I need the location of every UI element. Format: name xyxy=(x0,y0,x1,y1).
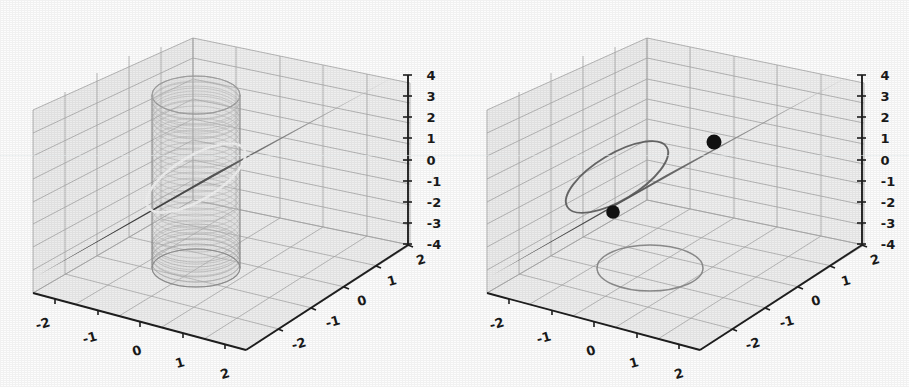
ellipse-min-point[interactable] xyxy=(606,205,620,219)
x-tick-label: -1 xyxy=(535,328,553,346)
x-tick-label: 1 xyxy=(627,354,640,371)
y-tick-label: -1 xyxy=(324,312,342,330)
subplot-ellipse-points[interactable]: -2 -1 0 1 2 -2 -1 0 1 2 xyxy=(454,0,909,387)
ellipse-max-point[interactable] xyxy=(707,135,722,150)
y-tick-label: 0 xyxy=(809,292,822,309)
y-tick-label: -1 xyxy=(778,312,796,330)
subplot-right-svg: -2 -1 0 1 2 -2 -1 0 1 2 xyxy=(454,0,909,387)
y-tick-label: -2 xyxy=(744,334,762,352)
y-tick-label: 2 xyxy=(868,251,881,268)
z-tick-label: 2 xyxy=(880,110,889,125)
x-tick-label: 0 xyxy=(130,342,143,359)
y-tick-label: -2 xyxy=(290,334,308,352)
x-tick-label: 1 xyxy=(173,354,186,371)
y-tick-label: 2 xyxy=(414,251,427,268)
z-tick-label: -3 xyxy=(881,216,895,231)
z-tick-label: 4 xyxy=(880,68,889,83)
z-tick-label: 3 xyxy=(426,89,435,104)
z-tick-label: -2 xyxy=(427,195,441,210)
x-tick-label: -2 xyxy=(34,314,52,332)
z-tick-label: -1 xyxy=(881,174,895,189)
x-tick-label: -1 xyxy=(81,328,99,346)
z-tick-label: 4 xyxy=(426,68,435,83)
z-tick-label: -1 xyxy=(427,174,441,189)
z-tick-label: -2 xyxy=(881,195,895,210)
y-tick-label: 0 xyxy=(355,292,368,309)
z-tick-label: -4 xyxy=(427,237,441,252)
z-tick-label: -3 xyxy=(427,216,441,231)
subplot-left-svg: -2 -1 0 1 2 -2 -1 0 1 2 xyxy=(0,0,455,387)
scan-artifact-line xyxy=(0,155,909,156)
subplot-plane-cylinder[interactable]: -2 -1 0 1 2 -2 -1 0 1 2 xyxy=(0,0,455,387)
figure-canvas: -2 -1 0 1 2 -2 -1 0 1 2 xyxy=(0,0,909,387)
x-tick-label: 2 xyxy=(218,365,231,382)
z-tick-label: 2 xyxy=(426,110,435,125)
z-tick-label: 1 xyxy=(880,131,889,146)
x-tick-label: -2 xyxy=(488,314,506,332)
x-tick-label: 2 xyxy=(672,365,685,382)
z-tick-label: -4 xyxy=(881,237,895,252)
z-tick-label: 1 xyxy=(426,131,435,146)
x-tick-label: 0 xyxy=(584,342,597,359)
y-tick-label: 1 xyxy=(385,272,398,289)
y-tick-label: 1 xyxy=(839,272,852,289)
z-tick-label: 3 xyxy=(880,89,889,104)
